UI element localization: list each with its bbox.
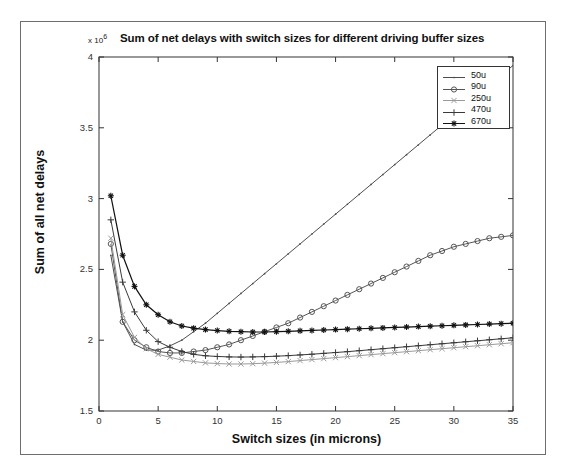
legend-item-670u: 670u bbox=[438, 115, 509, 127]
legend-item-90u: 90u bbox=[438, 81, 509, 93]
circle-marker bbox=[441, 81, 467, 92]
point-marker bbox=[240, 293, 242, 295]
legend-label: 250u bbox=[467, 93, 491, 103]
point-marker bbox=[453, 77, 455, 79]
point-marker bbox=[110, 254, 112, 256]
point-marker bbox=[441, 69, 467, 80]
point-marker bbox=[382, 174, 384, 176]
point-marker bbox=[406, 154, 408, 156]
point-marker bbox=[429, 134, 431, 136]
point-marker bbox=[205, 322, 207, 324]
point-marker bbox=[134, 344, 136, 346]
legend-sample-670u bbox=[441, 118, 467, 129]
plus-marker bbox=[441, 104, 467, 115]
point-marker bbox=[216, 312, 218, 314]
chart-legend: 50u90u250u470u670u bbox=[437, 66, 510, 129]
point-marker bbox=[323, 223, 325, 225]
point-marker bbox=[512, 65, 514, 67]
legend-label: 470u bbox=[467, 104, 491, 114]
point-marker bbox=[358, 194, 360, 196]
legend-label: 50u bbox=[467, 70, 486, 80]
point-marker bbox=[370, 184, 372, 186]
asterisk-marker bbox=[441, 115, 467, 126]
point-marker bbox=[394, 164, 396, 166]
point-marker bbox=[181, 339, 183, 341]
x-marker bbox=[441, 92, 467, 103]
point-marker bbox=[299, 243, 301, 245]
chart-figure: Sum of net delays with switch sizes for … bbox=[0, 0, 567, 473]
point-marker bbox=[311, 233, 313, 235]
point-marker bbox=[418, 144, 420, 146]
legend-label: 670u bbox=[467, 116, 491, 126]
legend-item-50u: 50u bbox=[438, 69, 509, 81]
point-marker bbox=[335, 213, 337, 215]
point-marker bbox=[228, 303, 230, 305]
screenshot-root: Sum of net delays with switch sizes for … bbox=[0, 0, 567, 473]
point-marker bbox=[287, 253, 289, 255]
legend-item-470u: 470u bbox=[438, 104, 509, 116]
point-marker bbox=[264, 273, 266, 275]
point-marker bbox=[157, 349, 159, 351]
legend-item-250u: 250u bbox=[438, 92, 509, 104]
point-marker bbox=[252, 283, 254, 285]
point-marker bbox=[276, 263, 278, 265]
legend-label: 90u bbox=[467, 81, 486, 91]
point-marker bbox=[347, 203, 349, 205]
